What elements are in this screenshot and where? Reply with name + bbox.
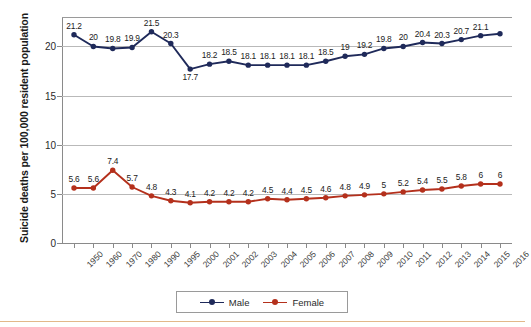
value-label: 4.8 bbox=[340, 182, 351, 192]
data-point-male[interactable] bbox=[400, 44, 405, 49]
data-point-female[interactable] bbox=[187, 200, 192, 205]
data-point-male[interactable] bbox=[362, 52, 367, 57]
x-axis-tick-mark bbox=[364, 243, 365, 248]
data-point-female[interactable] bbox=[459, 183, 464, 188]
x-axis-tick-mark bbox=[403, 243, 404, 248]
data-point-female[interactable] bbox=[246, 199, 251, 204]
y-axis-tick-label: 10 bbox=[45, 139, 56, 150]
data-point-male[interactable] bbox=[420, 40, 425, 45]
plot-area: 05101520 21.22019.819.921.520.317.718.21… bbox=[62, 17, 512, 243]
value-label: 5 bbox=[382, 180, 386, 190]
value-label: 4.2 bbox=[243, 188, 254, 198]
data-point-female[interactable] bbox=[420, 187, 425, 192]
x-axis-tick-mark bbox=[481, 243, 482, 248]
data-point-female[interactable] bbox=[110, 168, 115, 173]
data-point-female[interactable] bbox=[362, 192, 367, 197]
legend-item-female[interactable]: Female bbox=[263, 297, 324, 308]
data-point-female[interactable] bbox=[304, 196, 309, 201]
x-axis-tick-mark bbox=[442, 243, 443, 248]
x-axis-tick-label: 2004 bbox=[278, 249, 298, 269]
legend-item-male[interactable]: Male bbox=[200, 297, 250, 308]
data-point-female[interactable] bbox=[381, 191, 386, 196]
data-point-female[interactable] bbox=[439, 186, 444, 191]
data-point-female[interactable] bbox=[400, 189, 405, 194]
value-label: 18.1 bbox=[260, 51, 276, 61]
value-label: 5.7 bbox=[127, 173, 138, 183]
data-point-male[interactable] bbox=[284, 62, 289, 67]
data-point-male[interactable] bbox=[478, 33, 483, 38]
value-label: 4.9 bbox=[359, 181, 370, 191]
value-label: 6 bbox=[478, 170, 482, 180]
y-axis-title: Suicide deaths per 100,000 resident popu… bbox=[18, 8, 30, 248]
data-point-female[interactable] bbox=[323, 195, 328, 200]
data-point-male[interactable] bbox=[110, 46, 115, 51]
x-axis-tick-mark bbox=[190, 243, 191, 248]
data-point-female[interactable] bbox=[207, 199, 212, 204]
x-axis-tick-label: 2003 bbox=[259, 249, 279, 269]
value-label: 4.8 bbox=[146, 182, 157, 192]
value-label: 7.4 bbox=[107, 156, 118, 166]
value-label: 20.3 bbox=[163, 30, 179, 40]
x-axis-tick-mark bbox=[423, 243, 424, 248]
data-point-male[interactable] bbox=[323, 59, 328, 64]
x-axis-labels: 1950196019701980199019952000200120022003… bbox=[62, 249, 512, 289]
x-axis-tick-mark bbox=[500, 243, 501, 248]
data-point-male[interactable] bbox=[168, 41, 173, 46]
data-point-female[interactable] bbox=[284, 197, 289, 202]
data-point-female[interactable] bbox=[71, 185, 76, 190]
data-point-female[interactable] bbox=[265, 196, 270, 201]
value-label: 21.1 bbox=[473, 22, 489, 32]
data-point-female[interactable] bbox=[342, 193, 347, 198]
data-point-female[interactable] bbox=[129, 184, 134, 189]
data-point-male[interactable] bbox=[304, 62, 309, 67]
value-label: 4.6 bbox=[320, 184, 331, 194]
value-label: 5.6 bbox=[68, 174, 79, 184]
value-label: 18.5 bbox=[221, 47, 237, 57]
data-point-male[interactable] bbox=[91, 44, 96, 49]
x-axis-tick-label: 1995 bbox=[181, 249, 201, 269]
value-label: 5.2 bbox=[398, 178, 409, 188]
x-axis-tick-label: 1990 bbox=[162, 249, 182, 269]
value-label: 4.2 bbox=[204, 188, 215, 198]
data-point-male[interactable] bbox=[381, 46, 386, 51]
data-point-female[interactable] bbox=[497, 181, 502, 186]
data-point-female[interactable] bbox=[168, 198, 173, 203]
x-axis-tick-label: 2008 bbox=[356, 249, 376, 269]
data-point-female[interactable] bbox=[226, 199, 231, 204]
x-axis-tick-mark bbox=[461, 243, 462, 248]
legend-marker-female-icon bbox=[263, 298, 287, 307]
x-axis-tick-mark bbox=[326, 243, 327, 248]
x-axis-tick-label: 1960 bbox=[104, 249, 124, 269]
data-point-male[interactable] bbox=[497, 31, 502, 36]
data-point-male[interactable] bbox=[265, 62, 270, 67]
data-point-male[interactable] bbox=[439, 41, 444, 46]
x-axis-tick-mark bbox=[132, 243, 133, 248]
data-point-male[interactable] bbox=[226, 59, 231, 64]
data-point-female[interactable] bbox=[91, 185, 96, 190]
data-point-male[interactable] bbox=[207, 61, 212, 66]
value-label: 19.2 bbox=[357, 40, 373, 50]
data-point-male[interactable] bbox=[71, 32, 76, 37]
data-point-male[interactable] bbox=[187, 66, 192, 71]
x-axis-tick-mark bbox=[384, 243, 385, 248]
x-axis-tick-label: 2011 bbox=[414, 249, 434, 269]
data-point-female[interactable] bbox=[149, 193, 154, 198]
value-label: 18.2 bbox=[202, 50, 218, 60]
x-axis-tick-label: 2002 bbox=[239, 249, 259, 269]
data-point-male[interactable] bbox=[342, 54, 347, 59]
value-label: 4.2 bbox=[223, 188, 234, 198]
x-axis-tick-mark bbox=[306, 243, 307, 248]
x-axis-tick-mark bbox=[345, 243, 346, 248]
data-point-male[interactable] bbox=[149, 29, 154, 34]
x-axis-tick-label: 2001 bbox=[220, 249, 240, 269]
data-point-female[interactable] bbox=[478, 181, 483, 186]
data-point-male[interactable] bbox=[246, 62, 251, 67]
data-point-male[interactable] bbox=[129, 45, 134, 50]
value-label: 5.4 bbox=[417, 176, 428, 186]
x-axis-tick-mark bbox=[287, 243, 288, 248]
value-label: 20 bbox=[89, 32, 98, 42]
x-axis-tick-label: 2006 bbox=[317, 249, 337, 269]
x-axis-tick-mark bbox=[171, 243, 172, 248]
data-point-male[interactable] bbox=[459, 37, 464, 42]
x-axis-tick-label: 1950 bbox=[85, 249, 105, 269]
